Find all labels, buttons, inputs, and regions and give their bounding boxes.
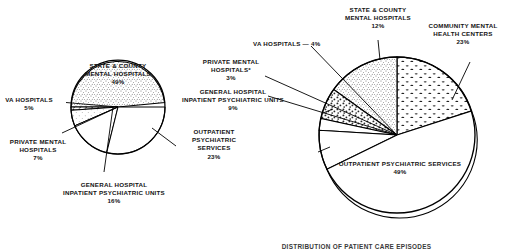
left-label-va: VA HOSPITALS 5%: [0, 96, 60, 112]
left-leader-outpatient: [152, 128, 176, 146]
right-label-community: COMMUNITY MENTAL HEALTH CENTERS 23%: [415, 22, 511, 47]
right-label-general-hospital: GENERAL HOSPITAL INPATIENT PSYCHIATRIC U…: [178, 88, 288, 113]
right-label-outpatient: OUTPATIENT PSYCHIATRIC SERVICES 49%: [330, 160, 470, 176]
left-label-state-county: STATE & COUNTY MENTAL HOSPITALS 49%: [68, 62, 168, 87]
figure-bottom-note: DISTRIBUTION OF PATIENT CARE EPISODES: [200, 243, 513, 252]
right-leader-state-county: [378, 40, 380, 60]
right-label-va: VA HOSPITALS — 4%: [253, 40, 333, 48]
figure-canvas: STATE & COUNTY MENTAL HOSPITALS 49% VA H…: [0, 0, 513, 252]
left-label-private: PRIVATE MENTAL HOSPITALS 7%: [2, 138, 74, 163]
right-label-private: PRIVATE MENTAL HOSPITALS* 3%: [186, 58, 276, 83]
right-pie-group: [265, 40, 477, 218]
left-label-outpatient: OUTPATIENT PSYCHIATRIC SERVICES 23%: [178, 128, 250, 161]
left-label-general-hospital: GENERAL HOSPITAL INPATIENT PSYCHIATRIC U…: [48, 181, 180, 206]
